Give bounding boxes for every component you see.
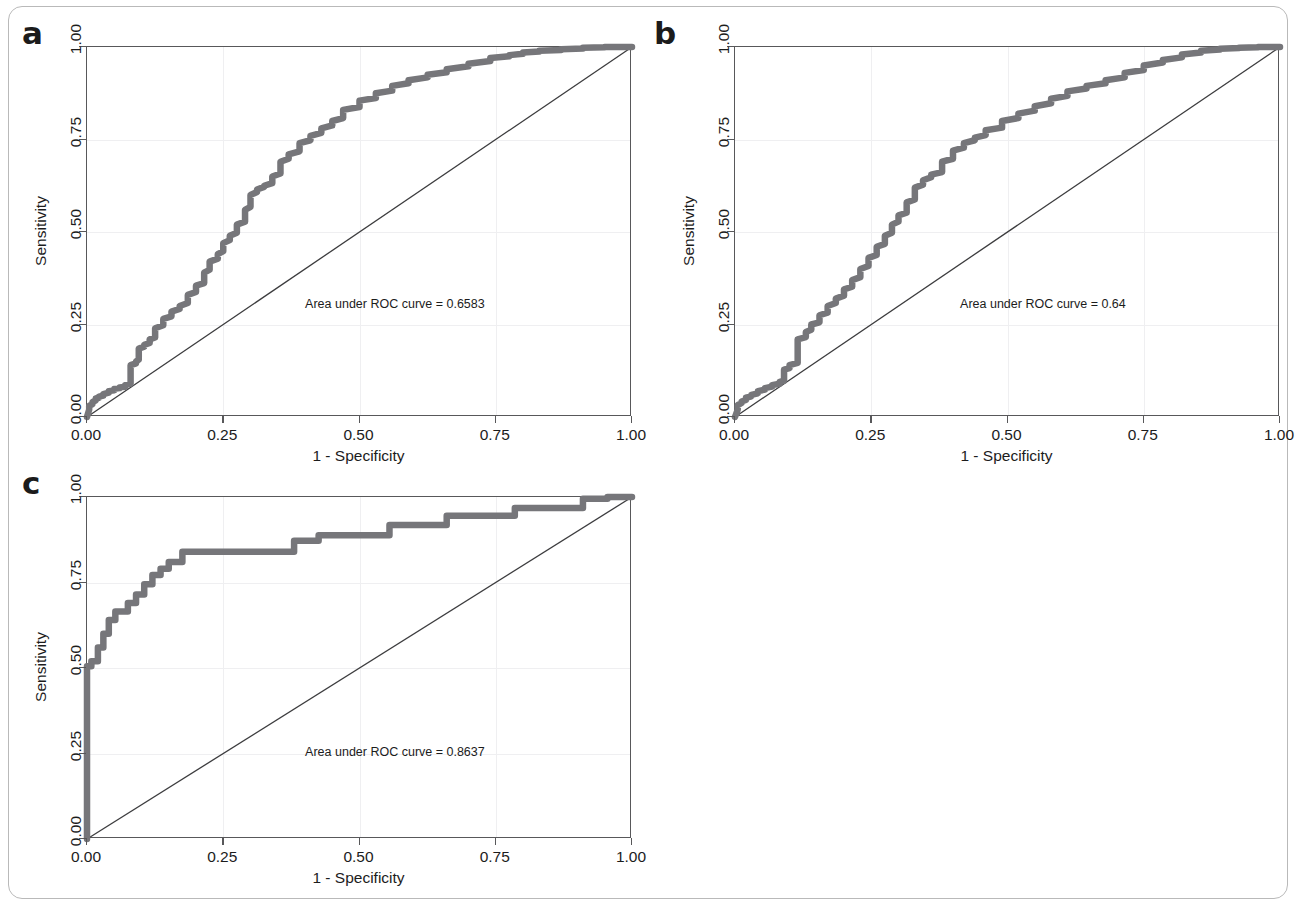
x-tick-label: 0.50 bbox=[343, 848, 373, 866]
x-tick-label: 1.00 bbox=[616, 848, 646, 866]
x-axis-title-c: 1 - Specificity bbox=[312, 869, 404, 887]
auc-annotation-c: Area under ROC curve = 0.8637 bbox=[305, 745, 485, 759]
plot-area-c: Area under ROC curve = 0.8637 bbox=[86, 496, 631, 838]
y-tick-label: 0.25 bbox=[67, 731, 85, 773]
y-axis-title-c: Sensitivity bbox=[32, 617, 50, 717]
y-tick-label: 1.00 bbox=[67, 474, 85, 516]
x-tick-mark bbox=[222, 838, 223, 845]
x-tick-mark bbox=[359, 838, 360, 845]
y-tick-label: 0.50 bbox=[67, 645, 85, 687]
reference-diagonal-c bbox=[87, 497, 632, 839]
x-tick-mark bbox=[495, 838, 496, 845]
y-tick-label: 0.75 bbox=[67, 560, 85, 602]
x-tick-label: 0.75 bbox=[480, 848, 510, 866]
roc-panel-c: cArea under ROC curve = 0.86370.000.250.… bbox=[0, 0, 1296, 907]
panel-label-c: c bbox=[22, 468, 40, 499]
x-tick-mark bbox=[86, 838, 87, 845]
x-tick-label: 0.25 bbox=[207, 848, 237, 866]
curve-layer-c bbox=[87, 497, 632, 839]
y-tick-label: 0.00 bbox=[67, 816, 85, 858]
x-tick-mark bbox=[631, 838, 632, 845]
